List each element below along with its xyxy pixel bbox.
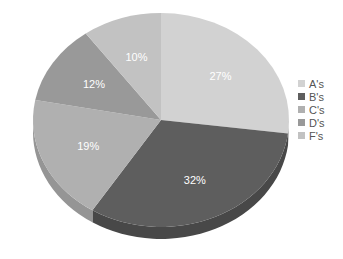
legend-swatch	[298, 93, 305, 100]
legend-swatch	[298, 80, 305, 87]
pie-chart: 27%32%19%12%10%	[0, 0, 343, 259]
pie-label: 19%	[77, 140, 99, 152]
pie-label: 12%	[83, 78, 105, 90]
legend-label: B's	[309, 91, 324, 103]
legend: A's B's C's D's F's	[298, 77, 325, 142]
legend-item-a: A's	[298, 77, 325, 90]
legend-swatch	[298, 119, 305, 126]
pie-label: 27%	[210, 70, 232, 82]
legend-item-f: F's	[298, 129, 325, 142]
legend-label: C's	[309, 104, 325, 116]
pie-label: 10%	[125, 51, 147, 63]
pie-label: 32%	[184, 174, 206, 186]
legend-label: D's	[309, 117, 325, 129]
legend-swatch	[298, 132, 305, 139]
legend-item-d: D's	[298, 116, 325, 129]
legend-item-c: C's	[298, 103, 325, 116]
legend-item-b: B's	[298, 90, 325, 103]
legend-label: F's	[309, 130, 323, 142]
pie-slices	[33, 13, 289, 227]
legend-swatch	[298, 106, 305, 113]
legend-label: A's	[309, 78, 324, 90]
